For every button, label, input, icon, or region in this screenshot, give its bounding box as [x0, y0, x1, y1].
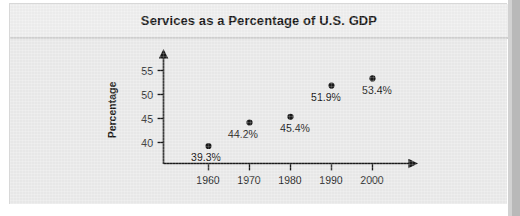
plot-area: Percentage 40 45 50 55 1960 1970 1980 19… — [10, 41, 508, 205]
chart-title-band: Services as a Percentage of U.S. GDP — [10, 4, 508, 39]
page-edge-strip — [512, 0, 520, 216]
y-axis-title: Percentage — [106, 65, 118, 155]
data-point-1970 — [246, 119, 252, 125]
y-tick-label-55: 55 — [127, 65, 153, 77]
x-tick-label-1990: 1990 — [311, 174, 351, 186]
page-title: Services as a Percentage of U.S. GDP — [141, 13, 377, 28]
x-tick-label-1970: 1970 — [229, 174, 269, 186]
data-point-1980 — [287, 114, 293, 120]
data-label-1970: 44.2% — [220, 128, 266, 140]
figure-panel: Services as a Percentage of U.S. GDP — [9, 3, 507, 204]
x-tick-label-2000: 2000 — [352, 174, 392, 186]
data-point-1960 — [205, 143, 211, 149]
x-tick-label-1960: 1960 — [188, 174, 228, 186]
y-axis-ticks — [158, 71, 164, 143]
data-point-2000 — [369, 75, 375, 81]
page-background: Services as a Percentage of U.S. GDP — [0, 0, 520, 216]
data-label-2000: 53.4% — [354, 84, 400, 96]
y-tick-label-40: 40 — [127, 137, 153, 149]
x-tick-label-1980: 1980 — [270, 174, 310, 186]
data-label-1990: 51.9% — [303, 91, 349, 103]
data-label-1980: 45.4% — [272, 122, 318, 134]
y-tick-label-50: 50 — [127, 89, 153, 101]
data-point-1990 — [328, 83, 334, 89]
data-label-1960: 39.3% — [183, 151, 229, 163]
x-axis-ticks — [209, 164, 373, 171]
y-tick-label-45: 45 — [127, 113, 153, 125]
